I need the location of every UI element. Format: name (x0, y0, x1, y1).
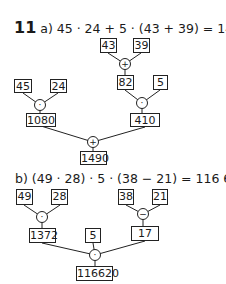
part-b-label: b) (15, 171, 28, 186)
part-a-equation: 45 · 24 + 5 · (43 + 39) = 1490 (57, 21, 226, 36)
part-b-header: b) (49 · 28) · 5 · (38 − 21) = 116 620 (15, 171, 226, 186)
box-39: 39 (133, 38, 150, 53)
part-b-equation: (49 · 28) · 5 · (38 − 21) = 116 620 (32, 171, 226, 186)
multiply-operator-icon: · (89, 249, 101, 261)
box-1080: 1080 (26, 113, 56, 127)
multiply-operator-icon: · (36, 211, 48, 223)
exercise-number: 11 (14, 18, 36, 37)
multiply-operator-icon: · (136, 97, 148, 109)
box-21: 21 (152, 189, 168, 205)
part-a-label: a) (40, 21, 53, 36)
box-410: 410 (130, 113, 160, 127)
box-24: 24 (50, 79, 67, 93)
box-38: 38 (118, 189, 134, 205)
plus-operator-icon: + (87, 136, 99, 148)
box-1372: 1372 (29, 228, 56, 243)
box-45: 45 (14, 79, 32, 93)
box-28: 28 (51, 189, 68, 205)
box-5: 5 (85, 228, 101, 243)
minus-operator-icon: − (137, 208, 149, 220)
plus-operator-icon: + (119, 58, 131, 70)
box-5: 5 (153, 75, 168, 90)
part-a-header: 11 a) 45 · 24 + 5 · (43 + 39) = 1490 (14, 18, 226, 37)
box-116620: 116620 (76, 266, 113, 281)
box-49: 49 (16, 189, 33, 205)
box-17: 17 (131, 226, 159, 241)
box-43: 43 (100, 38, 117, 53)
box-1490: 1490 (80, 151, 107, 165)
multiply-operator-icon: · (34, 99, 46, 111)
box-82: 82 (117, 75, 134, 90)
